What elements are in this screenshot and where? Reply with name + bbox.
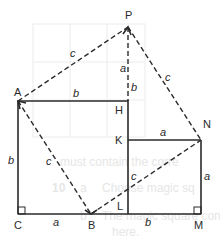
side-LM: b <box>145 216 151 228</box>
label-M: M <box>194 219 203 231</box>
point-labels: P A H K N C B L M <box>14 9 211 231</box>
label-N: N <box>203 118 211 130</box>
side-NM: a <box>204 170 210 182</box>
side-PH-b: b <box>131 81 137 93</box>
side-PN: c <box>165 71 171 83</box>
side-AP: c <box>70 47 76 59</box>
label-L: L <box>117 200 123 212</box>
side-AB: c <box>46 155 52 167</box>
bleed-line-4: here. <box>112 225 139 239</box>
bleed-a: a <box>80 181 87 195</box>
side-KN: a <box>160 126 166 138</box>
side-AC: b <box>8 154 14 166</box>
label-P: P <box>125 9 132 21</box>
side-BN: c <box>131 170 137 182</box>
right-angle-C-icon <box>18 207 25 214</box>
vertex-P-marker <box>123 27 131 35</box>
label-C: C <box>14 219 22 231</box>
label-H: H <box>115 104 123 116</box>
bleed-number: 10 <box>52 181 66 195</box>
side-CB: a <box>53 216 59 228</box>
side-AH: b <box>73 87 79 99</box>
label-K: K <box>115 134 123 146</box>
label-A: A <box>14 86 22 98</box>
edge-B-N <box>91 140 201 214</box>
bleed-line-2: Choose magic sq <box>102 181 195 195</box>
label-B: B <box>88 219 95 231</box>
side-PH-a: a <box>120 62 126 74</box>
geometry-diagram: must contain the corre 10 a Choose magic… <box>0 0 220 242</box>
edge-P-N <box>128 27 201 140</box>
